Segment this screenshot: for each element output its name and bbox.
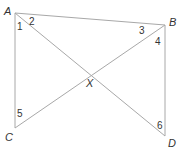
angle-label-6: 6 [157,121,163,131]
vertex-label-b: B [169,17,176,28]
geometry-diagram: A B C D X 1 2 3 4 5 6 [0,0,186,150]
angle-label-2: 2 [29,17,35,27]
vertex-label-d: D [168,138,176,149]
angle-label-4: 4 [155,37,161,47]
angle-label-3: 3 [139,26,145,36]
angle-label-1: 1 [17,22,23,32]
intersection-label-x: X [86,78,93,89]
angle-label-5: 5 [17,109,23,119]
vertex-label-a: A [4,6,11,17]
vertex-label-c: C [5,132,13,143]
segment-ab [15,13,165,25]
